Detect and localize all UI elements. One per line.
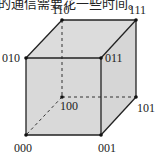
vertex-label-110: 110 (52, 3, 70, 17)
vertex-label-010: 010 (2, 51, 20, 65)
vertex-label-101: 101 (137, 101, 155, 115)
vertex-label-001: 001 (98, 141, 116, 155)
hypercube-diagram: 110 111 010 011 100 101 000 001 (0, 0, 155, 161)
vertex-label-100: 100 (60, 99, 78, 113)
vertex-label-111: 111 (129, 3, 146, 17)
vertex-label-000: 000 (14, 141, 32, 155)
vertex-label-011: 011 (105, 51, 123, 65)
